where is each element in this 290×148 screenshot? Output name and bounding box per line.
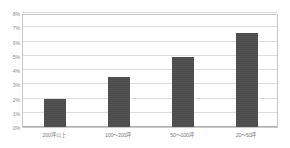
y-axis-tick-label: 8%: [0, 11, 20, 17]
x-axis-category-label: 20〜50坪: [214, 131, 278, 138]
y-axis-tick-label: 5%: [0, 54, 20, 60]
bar-slot: [215, 15, 279, 127]
y-axis-tick-label: 2%: [0, 97, 20, 103]
bar[interactable]: [236, 33, 258, 127]
bar[interactable]: [44, 99, 66, 128]
bar-slot: [23, 15, 87, 127]
bar-chart: 8%7%6%5%4%3%2%1%0%200坪以上100〜200坪50〜100坪2…: [0, 0, 290, 148]
bar[interactable]: [172, 57, 194, 127]
y-axis-tick-label: 4%: [0, 68, 20, 74]
gridline: [23, 12, 277, 13]
x-axis-category-label: 200坪以上: [22, 131, 86, 138]
y-axis-tick-label: 6%: [0, 40, 20, 46]
bar-slot: [87, 15, 151, 127]
bar[interactable]: [108, 77, 130, 127]
x-axis-category-label: 50〜100坪: [150, 131, 214, 138]
bar-slot: [151, 15, 215, 127]
y-axis-tick-label: 0%: [0, 125, 20, 131]
y-axis-tick-label: 3%: [0, 82, 20, 88]
y-axis-tick-label: 7%: [0, 25, 20, 31]
y-axis-tick-label: 1%: [0, 111, 20, 117]
plot-area: [22, 14, 278, 128]
x-axis-category-label: 100〜200坪: [86, 131, 150, 138]
